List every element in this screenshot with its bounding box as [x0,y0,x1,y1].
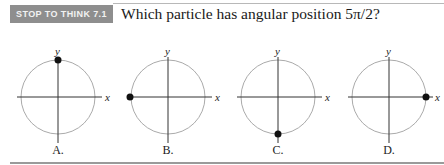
circle-diagram-c: x y [223,25,333,162]
particle-dot [55,57,62,64]
x-axis-label: x [214,91,220,103]
particle-dot [127,94,134,101]
x-axis-label: x [104,91,110,103]
option-label-b: B. [113,143,223,158]
y-axis-label: y [385,45,391,57]
y-axis-label: y [164,45,170,57]
particle-dot [275,131,282,138]
y-axis-label: y [274,45,280,57]
x-axis-label: x [324,91,330,103]
circle-diagram-b: x y [113,25,223,162]
y-axis-label: y [54,45,60,57]
option-a-diagram: x y A. [3,25,113,162]
stop-to-think-badge: STOP TO THINK 7.1 [10,5,113,23]
option-label-a: A. [3,143,113,158]
circle-diagram-d: x y [334,25,444,162]
particle-dot [423,94,430,101]
bottom-rule [10,162,444,164]
option-label-d: D. [334,143,444,158]
question-text: Which particle has angular position 5π/2… [121,4,380,24]
option-c-diagram: x y C. [223,25,333,162]
circle-diagram-a: x y [3,25,113,162]
option-d-diagram: x y D. [334,25,444,162]
option-b-diagram: x y B. [113,25,223,162]
x-axis-label: x [434,91,440,103]
option-label-c: C. [223,143,333,158]
